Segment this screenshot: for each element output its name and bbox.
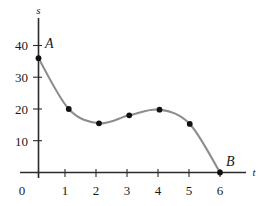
- data-point: [36, 55, 42, 61]
- x-tick-label-2: 2: [93, 183, 100, 198]
- data-point-group: [36, 55, 223, 175]
- data-point: [96, 120, 102, 126]
- point-label-b: B: [226, 154, 235, 169]
- x-tick-label-0: 0: [19, 183, 26, 198]
- y-tick-label-40: 40: [15, 38, 28, 53]
- x-tick-label-1: 1: [62, 183, 69, 198]
- y-tick-label-20: 20: [15, 102, 28, 117]
- data-point: [187, 121, 193, 127]
- chart-canvas: 40 30 20 10 0 1 2 3 4 5 6 s t A B: [0, 0, 270, 206]
- data-point: [157, 107, 163, 113]
- y-tick-label-30: 30: [15, 70, 28, 85]
- x-tick-label-3: 3: [124, 183, 131, 198]
- x-tick-label-4: 4: [155, 183, 162, 198]
- point-label-a: A: [44, 36, 54, 51]
- data-point: [66, 106, 72, 112]
- chart-figure: 40 30 20 10 0 1 2 3 4 5 6 s t A B: [0, 0, 270, 206]
- x-axis-label: t: [252, 166, 256, 178]
- x-tick-label-5: 5: [186, 183, 193, 198]
- y-tick-label-10: 10: [15, 134, 28, 149]
- data-point: [217, 170, 223, 176]
- y-axis-label: s: [36, 4, 40, 16]
- x-tick-label-6: 6: [217, 183, 224, 198]
- data-point: [126, 112, 132, 118]
